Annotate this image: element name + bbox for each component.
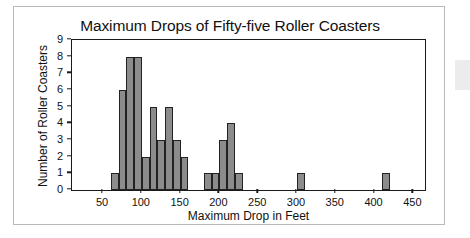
histogram-bar (150, 107, 158, 190)
x-axis-tick-label: 150 (170, 197, 188, 208)
histogram-bar (157, 140, 165, 190)
y-axis-tick-label: 2 (57, 150, 63, 161)
x-axis-tick-mark (218, 189, 219, 193)
y-axis-tick-label: 6 (57, 84, 63, 95)
y-axis-tick-label: 9 (57, 34, 63, 45)
y-axis-tick-labels: 0123456789 (14, 39, 71, 189)
x-axis-tick-mark (140, 189, 141, 193)
x-axis-tick-mark (101, 189, 102, 193)
histogram-bar (297, 173, 305, 190)
x-axis-tick-label: 400 (364, 197, 382, 208)
x-axis-tick-label: 100 (132, 197, 150, 208)
y-axis-tick-label: 8 (57, 50, 63, 61)
histogram-bar (382, 173, 390, 190)
figure-frame: Maximum Drops of Fifty-five Roller Coast… (13, 6, 445, 225)
plot-area (71, 39, 426, 191)
x-axis-title: Maximum Drop in Feet (71, 209, 426, 223)
x-axis-tick-label: 300 (287, 197, 305, 208)
x-axis-tick-mark (412, 189, 413, 193)
histogram-bar (126, 57, 134, 190)
histogram-bar (181, 157, 189, 190)
x-axis-tick-label: 350 (326, 197, 344, 208)
histogram-bar (165, 107, 173, 190)
side-strip-decoration (455, 60, 470, 90)
histogram-bar (173, 140, 181, 190)
y-axis-tick-label: 1 (57, 167, 63, 178)
histogram-bar (227, 123, 235, 190)
histogram-bar (212, 173, 220, 190)
x-axis-tick-mark (295, 189, 296, 193)
y-axis-tick-label: 5 (57, 100, 63, 111)
histogram-bars (72, 40, 425, 190)
y-axis-tick-label: 7 (57, 67, 63, 78)
histogram-bar (119, 90, 127, 190)
histogram-bar (111, 173, 119, 190)
histogram-bar (142, 157, 150, 190)
x-axis-tick-label: 50 (96, 197, 108, 208)
x-axis-tick-mark (334, 189, 335, 193)
histogram-bar (134, 57, 142, 190)
chart-title: Maximum Drops of Fifty-five Roller Coast… (14, 17, 446, 35)
x-axis-tick-mark (256, 189, 257, 193)
y-axis-tick-label: 4 (57, 117, 63, 128)
x-axis-tick-label: 200 (209, 197, 227, 208)
histogram-bar (235, 173, 243, 190)
x-axis-tick-label: 250 (248, 197, 266, 208)
histogram-bar (219, 140, 227, 190)
x-axis-tick-label: 450 (403, 197, 421, 208)
x-axis-tick-mark (373, 189, 374, 193)
x-axis-tick-mark (179, 189, 180, 193)
y-axis-tick-label: 0 (57, 184, 63, 195)
histogram-bar (204, 173, 212, 190)
y-axis-tick-label: 3 (57, 134, 63, 145)
